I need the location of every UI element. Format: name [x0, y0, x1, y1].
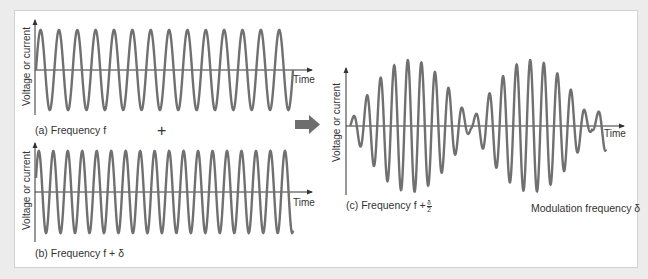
waveform-diagram	[0, 0, 648, 279]
graph-c-x-axis-label: Time	[604, 129, 626, 139]
graph-c-caption-prefix: (c) Frequency f +	[346, 199, 426, 211]
graph-b-x-axis-label: Time	[293, 198, 315, 208]
modulation-frequency-label: Modulation frequency δ	[531, 203, 640, 214]
plus-operator: +	[157, 123, 166, 139]
graph-a-caption: (a) Frequency f	[35, 125, 106, 136]
caption-fraction: δ2	[427, 200, 432, 213]
graph-b-y-axis-label: Voltage or current	[22, 151, 32, 230]
result-arrow-icon	[295, 115, 320, 134]
graph-a-y-axis-label: Voltage or current	[22, 27, 32, 106]
graph-c-caption: (c) Frequency f +δ2	[346, 200, 432, 213]
fraction-denominator: 2	[427, 207, 432, 213]
graph-c-y-axis-label: Voltage or current	[332, 83, 342, 162]
graph-b-caption: (b) Frequency f + δ	[35, 248, 124, 259]
graph-a-x-axis-label: Time	[293, 75, 315, 85]
